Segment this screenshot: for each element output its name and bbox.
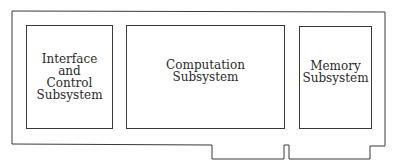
computation-subsystem-box: Computation Subsystem	[126, 25, 285, 129]
memory-subsystem-label: Memory Subsystem	[302, 60, 368, 84]
board-diagram: Interface and Control Subsystem Computat…	[0, 0, 395, 167]
interface-control-subsystem-label: Interface and Control Subsystem	[36, 53, 102, 101]
computation-subsystem-label: Computation Subsystem	[166, 59, 245, 83]
memory-subsystem-box: Memory Subsystem	[299, 26, 372, 129]
interface-control-subsystem-box: Interface and Control Subsystem	[26, 25, 113, 129]
